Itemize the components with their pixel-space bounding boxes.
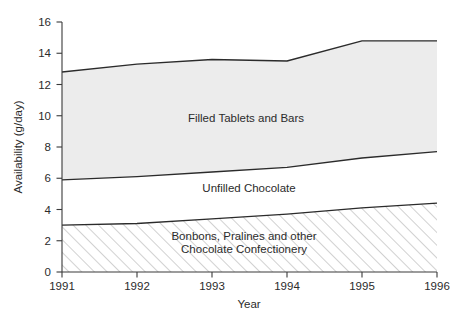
stacked-area-chart: 0 2 4 6 8 10 12 14 16 1991 1992 1993 199… [0,0,463,316]
y-tick-label-8: 8 [45,141,51,153]
series-label-bonbons-line-2: Chocolate Confectionery [181,243,307,255]
chart-canvas: 0 2 4 6 8 10 12 14 16 1991 1992 1993 199… [0,0,463,316]
y-tick-label-0: 0 [45,266,51,278]
y-axis-ticks [57,22,63,272]
y-axis-title: Availability (g/day) [12,100,24,193]
series-label-bonbons-line-1: Bonbons, Pralines and other [171,230,316,242]
x-axis-title: Year [237,298,260,310]
y-tick-label-10: 10 [38,110,51,122]
x-tick-label-1993: 1993 [199,280,225,292]
y-tick-label-14: 14 [38,47,51,59]
x-tick-label-1991: 1991 [49,280,75,292]
x-tick-label-1996: 1996 [424,280,450,292]
x-axis-ticks [62,272,437,278]
x-tick-label-1992: 1992 [124,280,150,292]
y-tick-label-2: 2 [45,235,51,247]
y-tick-label-4: 4 [45,204,52,216]
y-axis-tick-labels: 0 2 4 6 8 10 12 14 16 [38,16,51,278]
series-label-unfilled-chocolate: Unfilled Chocolate [202,182,295,194]
y-tick-label-12: 12 [38,79,51,91]
x-axis-tick-labels: 1991 1992 1993 1994 1995 1996 [49,280,450,292]
x-tick-label-1995: 1995 [349,280,375,292]
y-tick-label-6: 6 [45,172,51,184]
series-label-filled-tablets-and-bars: Filled Tablets and Bars [188,112,304,124]
x-tick-label-1994: 1994 [274,280,300,292]
y-tick-label-16: 16 [38,16,51,28]
